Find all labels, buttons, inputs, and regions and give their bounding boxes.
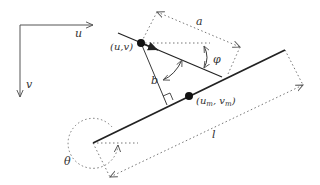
theta-label: θ	[64, 155, 71, 168]
l-extension-right	[285, 50, 303, 85]
a-extension-left	[141, 12, 157, 43]
a-extension-right	[228, 47, 240, 74]
midpoint-label: (um, vm)	[196, 95, 236, 108]
l-label: l	[212, 128, 216, 141]
a-label: a	[196, 15, 203, 28]
l-dimension-line	[110, 85, 303, 177]
phi-arc	[204, 46, 207, 68]
b-angle-arc	[163, 60, 182, 80]
start-point	[137, 39, 145, 47]
b-label: b	[151, 74, 158, 87]
coordinate-axes: u v	[20, 25, 93, 97]
start-point-label: (u,v)	[110, 41, 133, 52]
midpoint	[185, 92, 193, 100]
v-axis-label: v	[26, 78, 33, 91]
geometry-diagram: u v (u,v) (um, vm) a b l φ θ	[0, 0, 320, 185]
l-extension-left	[93, 143, 110, 177]
phi-label: φ	[213, 53, 221, 66]
u-axis-label: u	[75, 27, 82, 40]
